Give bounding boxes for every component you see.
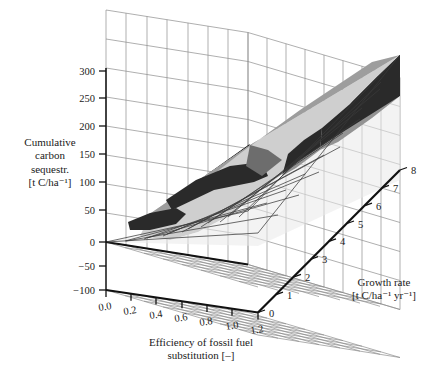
ytick-3: 3 <box>322 254 327 265</box>
z-axis-title-line3: sequestr. <box>31 163 69 175</box>
ztick-200: 200 <box>79 121 95 132</box>
z-axis-title-line1: Cumulative <box>24 136 75 148</box>
ztick-250: 250 <box>79 93 95 104</box>
ytick-7: 7 <box>393 183 398 194</box>
ytick-8: 8 <box>411 165 416 176</box>
ztick-50: 50 <box>85 205 96 216</box>
xtick-1.2: 1.2 <box>250 323 265 336</box>
ztick-0: 0 <box>90 237 95 248</box>
y-axis-title: Growth rate [t C/ha⁻¹ yr⁻¹] <box>337 276 431 303</box>
surface-mesh <box>106 55 400 246</box>
ytick-1: 1 <box>287 290 292 301</box>
xtick-0.0: 0.0 <box>98 300 113 313</box>
xtick-0.4: 0.4 <box>149 308 164 321</box>
ytick-5: 5 <box>358 219 363 230</box>
ytick-2: 2 <box>305 272 310 283</box>
z-axis-title: Cumulative carbon sequestr. [t C/ha⁻¹] <box>2 136 98 190</box>
z-axis-title-line2: carbon <box>35 149 65 161</box>
xtick-0.8: 0.8 <box>199 315 214 328</box>
ytick-6: 6 <box>376 201 381 212</box>
x-axis-title: Efficiency of fossil fuel substitution [… <box>108 336 294 363</box>
ztick-300: 300 <box>79 66 95 77</box>
z-axis-title-line4: [t C/ha⁻¹] <box>28 176 71 188</box>
surface-plot-figure: 300 250 200 150 100 50 0 −50 −100 0.0 0. <box>0 0 432 376</box>
ytick-4: 4 <box>340 236 346 247</box>
ztick-neg100: −100 <box>73 285 95 296</box>
x-axis-title-line1: Efficiency of fossil fuel <box>149 336 253 348</box>
xtick-1.0: 1.0 <box>225 319 240 332</box>
xtick-0.2: 0.2 <box>123 304 138 317</box>
x-axis-title-line2: substitution [–] <box>168 349 235 361</box>
xtick-0.6: 0.6 <box>174 311 189 324</box>
ztick-neg50: −50 <box>79 261 95 272</box>
ytick-0: 0 <box>269 308 274 319</box>
y-axis-title-line2: [t C/ha⁻¹ yr⁻¹] <box>352 289 416 301</box>
y-axis-title-line1: Growth rate <box>358 276 411 288</box>
